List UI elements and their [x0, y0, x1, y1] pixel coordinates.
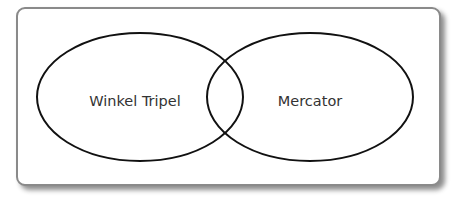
- venn-diagram: Winkel Tripel Mercator: [0, 0, 463, 198]
- set-winkel-tripel-label: Winkel Tripel: [89, 93, 181, 109]
- set-mercator-label: Mercator: [278, 93, 342, 109]
